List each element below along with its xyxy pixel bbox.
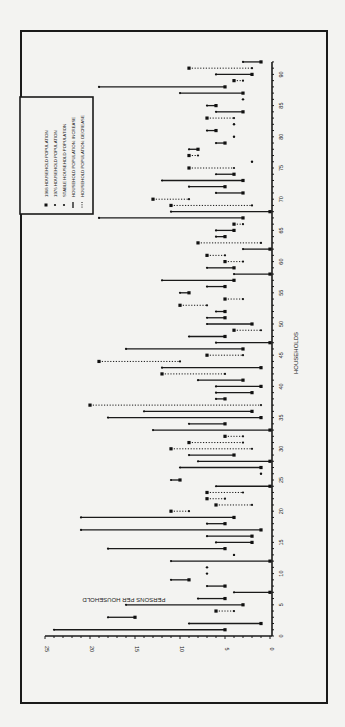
legend-large-dot-icon: [45, 204, 48, 207]
point-1976: [125, 604, 127, 606]
y-tick-label: 15: [134, 646, 140, 652]
x-tick-label: 85: [278, 103, 284, 109]
point-1976: [179, 360, 181, 362]
point-1968: [259, 622, 262, 625]
point-1968: [241, 179, 244, 182]
point-1976: [188, 335, 190, 337]
point-1976: [251, 448, 253, 450]
point-1968: [187, 154, 190, 157]
x-tick-label: 65: [278, 227, 284, 233]
point-1976: [215, 392, 217, 394]
point-1976: [197, 154, 199, 156]
point-1976: [179, 466, 181, 468]
x-tick-label: 25: [278, 477, 284, 483]
point-1968: [223, 85, 226, 88]
point-1968: [214, 609, 217, 612]
point-1976: [188, 186, 190, 188]
stable-point: [242, 98, 244, 100]
point-1968: [268, 248, 271, 251]
point-1976: [179, 92, 181, 94]
point-1976: [224, 498, 226, 500]
point-1968: [241, 216, 244, 219]
point-1976: [170, 579, 172, 581]
point-1976: [98, 86, 100, 88]
point-1976: [215, 310, 217, 312]
point-1968: [223, 547, 226, 550]
point-1976: [161, 179, 163, 181]
point-1976: [215, 398, 217, 400]
point-1976: [215, 342, 217, 344]
point-1976: [233, 117, 235, 119]
point-1976: [188, 148, 190, 150]
point-1976: [188, 510, 190, 512]
point-1976: [233, 610, 235, 612]
household-population-chart: 1968 HOUSEHOLD POPULATION1976 HOUSEHOLD …: [0, 0, 345, 727]
point-1976: [224, 254, 226, 256]
point-1968: [232, 279, 235, 282]
y-tick-label: 5: [224, 647, 230, 650]
stable-point: [260, 473, 262, 475]
point-1968: [151, 198, 154, 201]
point-1968: [259, 466, 262, 469]
point-1968: [205, 497, 208, 500]
point-1968: [214, 104, 217, 107]
point-1968: [250, 541, 253, 544]
x-tick-label: 35: [278, 415, 284, 421]
point-1968: [214, 129, 217, 132]
point-1968: [223, 397, 226, 400]
point-1968: [223, 628, 226, 631]
point-1968: [268, 428, 271, 431]
point-1968: [232, 79, 235, 82]
point-1968: [205, 354, 208, 357]
point-1968: [268, 272, 271, 275]
point-1976: [260, 242, 262, 244]
point-1976: [170, 560, 172, 562]
point-1976: [206, 304, 208, 306]
point-1968: [223, 185, 226, 188]
point-1968: [223, 260, 226, 263]
point-1968: [268, 460, 271, 463]
point-1976: [215, 173, 217, 175]
point-1976: [251, 204, 253, 206]
point-1976: [215, 236, 217, 238]
point-1968: [169, 447, 172, 450]
point-1976: [242, 491, 244, 493]
point-1968: [268, 210, 271, 213]
point-1976: [188, 198, 190, 200]
point-1976: [215, 111, 217, 113]
x-tick-label: 0: [278, 634, 284, 637]
point-1976: [242, 61, 244, 63]
x-tick-label: 50: [278, 321, 284, 327]
point-1976: [143, 410, 145, 412]
point-1976: [224, 373, 226, 375]
point-1976: [215, 385, 217, 387]
point-1968: [241, 379, 244, 382]
point-1976: [107, 616, 109, 618]
point-1968: [133, 616, 136, 619]
point-1976: [206, 323, 208, 325]
legend-label: 1976 HOUSEHOLD POPULATION: [53, 130, 58, 197]
stable-point: [251, 161, 253, 163]
point-1976: [215, 142, 217, 144]
point-1968: [259, 385, 262, 388]
stable-point: [233, 123, 235, 125]
point-1968: [232, 173, 235, 176]
y-tick-label: 10: [179, 646, 185, 652]
point-1976: [197, 460, 199, 462]
stable-point: [206, 566, 208, 568]
point-1976: [215, 485, 217, 487]
legend-label: HOUSEHOLD POPULATION: INCREASE: [71, 117, 76, 197]
point-1976: [98, 217, 100, 219]
y-tick-label: 0: [269, 647, 275, 650]
point-1968: [268, 560, 271, 563]
point-1968: [259, 416, 262, 419]
point-1976: [188, 423, 190, 425]
point-1976: [179, 292, 181, 294]
point-1968: [232, 453, 235, 456]
point-1976: [161, 279, 163, 281]
point-1976: [170, 479, 172, 481]
legend-label: STABLE HOUSEHOLD POPULATION: [62, 124, 67, 197]
point-1976: [206, 535, 208, 537]
point-1968: [232, 329, 235, 332]
point-1968: [223, 335, 226, 338]
